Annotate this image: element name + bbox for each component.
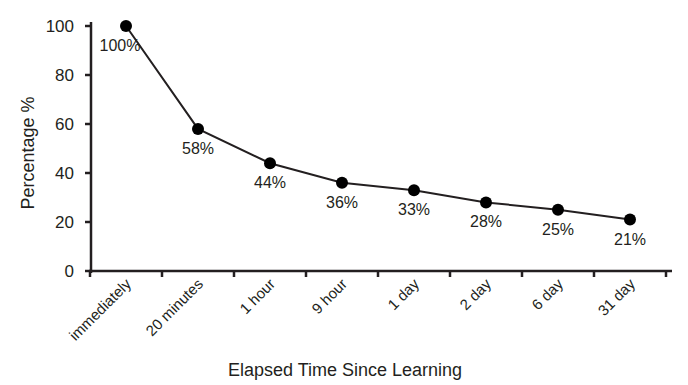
y-axis-title: Percentage % [18,96,38,209]
y-axis-ticks: 020406080100 [46,17,91,281]
data-point-marker [408,184,420,196]
y-tick-label: 60 [55,115,74,134]
y-tick-label: 0 [65,262,74,281]
x-category-label: 9 hour [308,275,350,317]
data-point-marker [480,196,492,208]
data-label: 21% [614,231,646,248]
data-point-marker [552,204,564,216]
x-category-label: 1 hour [236,275,278,317]
data-point-marker [192,123,204,135]
x-axis-title: Elapsed Time Since Learning [228,360,462,380]
data-point-marker [120,20,132,32]
x-category-label: 2 day [456,275,494,313]
data-label: 100% [100,37,141,54]
data-label: 28% [470,213,502,230]
y-tick-label: 100 [46,17,74,36]
x-axis-category-labels: immediately20 minutes1 hour9 hour1 day2 … [66,275,639,344]
data-markers [120,20,636,226]
x-category-label: immediately [66,275,135,344]
x-category-label: 20 minutes [142,275,206,339]
data-label: 25% [542,221,574,238]
data-point-marker [336,177,348,189]
x-category-label: 31 day [594,275,638,319]
data-point-marker [264,157,276,169]
retention-line [126,26,630,220]
x-category-label: 6 day [528,275,566,313]
data-labels: 100%58%44%36%33%28%25%21% [100,37,646,248]
data-label: 58% [182,140,214,157]
y-tick-label: 40 [55,164,74,183]
data-label: 44% [254,174,286,191]
data-point-marker [624,214,636,226]
y-tick-label: 20 [55,213,74,232]
data-label: 33% [398,201,430,218]
y-tick-label: 80 [55,66,74,85]
data-label: 36% [326,194,358,211]
forgetting-curve-chart: 020406080100 100%58%44%36%33%28%25%21% i… [0,0,688,385]
x-category-label: 1 day [384,275,422,313]
